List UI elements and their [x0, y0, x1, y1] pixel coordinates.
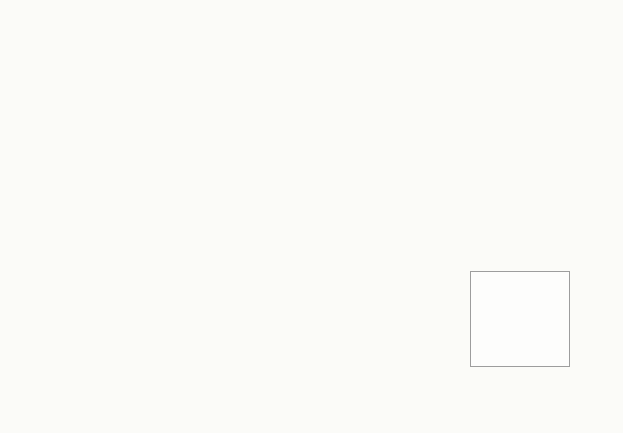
legend-item-co2-fossil-fuel: [480, 344, 562, 355]
legend-swatch-ch4: [480, 314, 490, 324]
ghg-emissions-figure: [0, 0, 623, 433]
legend-swatch-co2-folu: [480, 330, 490, 340]
legend-item-co2-folu: [480, 329, 562, 340]
legend-item-f-gases: [480, 282, 562, 293]
legend-swatch-f-gases: [480, 283, 490, 293]
stacked-area-plot: [0, 0, 623, 433]
legend-swatch-co2-fossil-fuel: [480, 345, 490, 355]
legend-item-ch4: [480, 313, 562, 324]
legend: [470, 271, 570, 367]
legend-swatch-n2o: [480, 299, 490, 309]
legend-item-n2o: [480, 298, 562, 309]
